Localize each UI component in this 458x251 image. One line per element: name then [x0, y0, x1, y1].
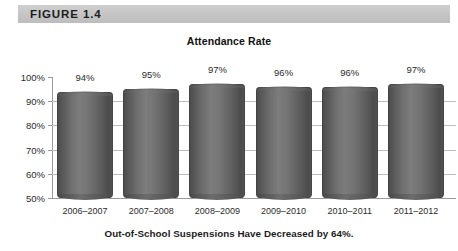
y-axis-tick-label: 60%: [0, 168, 45, 179]
x-axis-category-label: 2008–2009: [183, 206, 251, 216]
bar-bottom-cap: [123, 194, 179, 200]
bar: [388, 84, 444, 198]
bar-value-label: 95%: [123, 69, 179, 80]
y-axis-tick: [48, 198, 52, 199]
y-axis-line: [52, 77, 53, 198]
bar-top-cap: [388, 83, 444, 88]
x-axis-category-label: 2011–2012: [382, 206, 450, 216]
bar-value-label: 97%: [189, 64, 245, 75]
bar: [189, 84, 245, 198]
bar-value-label: 96%: [256, 67, 312, 78]
x-axis-category-label: 2007–2008: [117, 206, 185, 216]
bar-top-cap: [322, 86, 378, 91]
y-axis-tick: [48, 77, 52, 78]
bar: [322, 87, 378, 198]
bar-top-cap: [189, 83, 245, 88]
bar-top-cap: [256, 86, 312, 91]
y-axis-tick-label: 90%: [0, 96, 45, 107]
y-axis-tick-label: 100%: [0, 72, 45, 83]
y-axis-tick-label: 80%: [0, 120, 45, 131]
figure-number-label: FIGURE 1.4: [30, 8, 102, 20]
bar: [57, 92, 113, 198]
bar: [256, 87, 312, 198]
y-axis-tick-label: 70%: [0, 144, 45, 155]
x-axis-category-label: 2010–2011: [316, 206, 384, 216]
bar-bottom-cap: [388, 194, 444, 200]
bar-top-cap: [123, 88, 179, 93]
y-axis-tick: [48, 125, 52, 126]
x-axis-category-label: 2009–2010: [250, 206, 318, 216]
chart-title: Attendance Rate: [0, 35, 458, 47]
bar-value-label: 94%: [57, 72, 113, 83]
bar-top-cap: [57, 91, 113, 96]
attendance-rate-chart: Attendance Rate 100%90%80%70%60%50% 94%9…: [0, 33, 458, 218]
bar-bottom-cap: [57, 194, 113, 200]
y-axis-tick: [48, 150, 52, 151]
bar-bottom-cap: [189, 194, 245, 200]
y-axis-tick-label: 50%: [0, 193, 45, 204]
plot-area: [52, 77, 456, 198]
y-axis-tick: [48, 101, 52, 102]
bar-value-label: 97%: [388, 64, 444, 75]
bar-bottom-cap: [256, 194, 312, 200]
bar-value-label: 96%: [322, 67, 378, 78]
bar: [123, 89, 179, 198]
figure-caption: Out-of-School Suspensions Have Decreased…: [0, 228, 458, 239]
bar-bottom-cap: [322, 194, 378, 200]
y-axis-tick: [48, 174, 52, 175]
figure-header-band: FIGURE 1.4: [18, 5, 450, 23]
x-axis-category-label: 2006–2007: [51, 206, 119, 216]
